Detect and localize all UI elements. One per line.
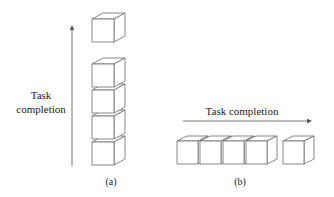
axis-label-completion: completion xyxy=(16,103,66,115)
cube-row xyxy=(177,136,314,164)
cube-side-face xyxy=(304,136,314,164)
diagram-canvas: Task completion (a) Task completion (b) xyxy=(0,0,334,197)
caption-b: (b) xyxy=(234,176,246,188)
cube-front-face xyxy=(92,19,114,42)
cube-front-face xyxy=(246,141,267,164)
cube-front-face xyxy=(92,116,114,139)
cube-front-face xyxy=(92,64,114,87)
cube-front-face xyxy=(177,141,198,164)
cube-front-face xyxy=(223,141,244,164)
cube-front-face xyxy=(200,141,221,164)
cube-separated xyxy=(283,136,314,164)
cube-stacked xyxy=(92,136,125,165)
axis-label-task-completion: Task completion xyxy=(206,105,279,117)
cube-adjacent xyxy=(246,136,277,164)
cube-stack xyxy=(92,13,125,165)
axis-label-task: Task xyxy=(31,89,52,101)
cube-front-face xyxy=(92,90,114,113)
cube-stacked xyxy=(92,84,125,113)
cube-stacked xyxy=(92,110,125,139)
cube-side-face xyxy=(267,136,277,164)
cube-stacked xyxy=(92,58,125,87)
panel-a: Task completion (a) xyxy=(16,13,125,188)
panel-b: Task completion (b) xyxy=(177,105,314,188)
cube-separated xyxy=(92,13,125,42)
cube-front-face xyxy=(283,141,304,164)
cube-front-face xyxy=(92,142,114,165)
caption-a: (a) xyxy=(105,176,116,188)
